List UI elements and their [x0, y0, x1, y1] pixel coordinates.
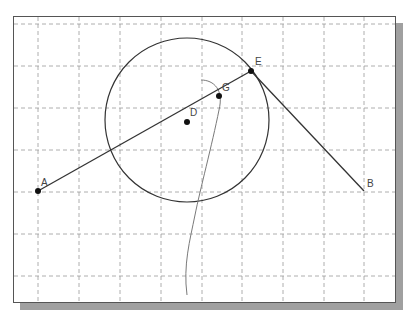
geometry-canvas: ADGEB [0, 0, 412, 318]
grid-lines [14, 17, 395, 302]
point-d [184, 119, 190, 125]
segment-ae [38, 71, 251, 191]
point-label-d: D [190, 107, 197, 118]
point-e [248, 68, 254, 74]
point-label-e: E [255, 56, 262, 67]
point-label-g: G [222, 82, 230, 93]
point-g [216, 93, 222, 99]
point-label-a: A [41, 177, 48, 188]
point-label-b: B [367, 178, 374, 189]
line-segments [38, 71, 364, 191]
point-a [35, 188, 41, 194]
